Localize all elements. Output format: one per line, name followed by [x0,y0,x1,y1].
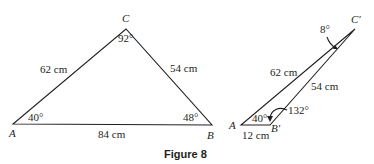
vertex-c-prime-label: C′ [351,13,361,25]
vertex-a2-label: A [228,119,236,131]
vertex-a-label: A [8,127,16,139]
side-bc-label: 54 cm [170,62,198,74]
side-b-prime-c-prime-label: 54 cm [311,80,339,92]
angle-b-label: 48° [183,111,198,123]
side-ab-label: 84 cm [98,128,126,140]
side-ac2-label: 62 cm [270,66,298,78]
triangle-ab-prime-c-prime: C′ A B′ 8° 40° 132° 62 cm 54 cm 12 cm [228,13,361,141]
vertex-b-prime-label: B′ [271,122,281,134]
angle-a-label: 40° [28,111,43,123]
angle-c-label: 92° [118,32,133,44]
figure-8-diagram: C A B 92° 40° 48° 62 cm 54 cm 84 cm C′ A… [0,0,374,164]
figure-caption: Figure 8 [164,148,207,160]
angle-a2-label: 40° [252,112,267,124]
side-ac-label: 62 cm [40,63,68,75]
angle-b-prime-label: 132° [288,104,309,116]
side-ab-prime-label: 12 cm [242,129,270,141]
vertex-c-label: C [122,12,130,24]
triangle-abc: C A B 92° 40° 48° 62 cm 54 cm 84 cm [8,12,214,141]
angle-c-prime-label: 8° [320,23,330,35]
vertex-b-label: B [207,129,214,141]
